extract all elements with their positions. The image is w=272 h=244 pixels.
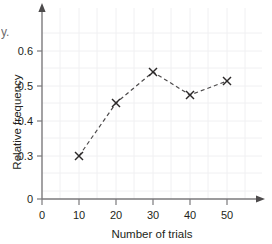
- x-tick-label-0: 0: [39, 209, 45, 221]
- x-tick-marks: [42, 199, 227, 205]
- x-tick-label-10: 10: [73, 209, 85, 221]
- y-tick-label-0.6: 0.6: [18, 45, 33, 57]
- x-axis-arrow-icon: [256, 195, 265, 202]
- x-tick-label-50: 50: [221, 209, 233, 221]
- y-tick-label-0: 0: [27, 193, 33, 205]
- chart-plot-area: 0.6 0.5 0.4 0.3 0 0 10 20 30 40 50 Numbe…: [0, 0, 272, 244]
- y-axis: [38, 3, 45, 199]
- x-tick-label-40: 40: [184, 209, 196, 221]
- x-tick-labels: 0 10 20 30 40 50: [39, 209, 233, 221]
- grid-lines: [42, 8, 262, 199]
- x-tick-label-30: 30: [147, 209, 159, 221]
- y-axis-arrow-icon: [38, 3, 45, 12]
- y-axis-title: Relative frequency: [11, 74, 23, 169]
- x-tick-label-20: 20: [110, 209, 122, 221]
- x-axis-title: Number of trials: [111, 228, 192, 240]
- relative-frequency-chart: y.: [0, 0, 272, 244]
- y-tick-marks: [37, 51, 42, 199]
